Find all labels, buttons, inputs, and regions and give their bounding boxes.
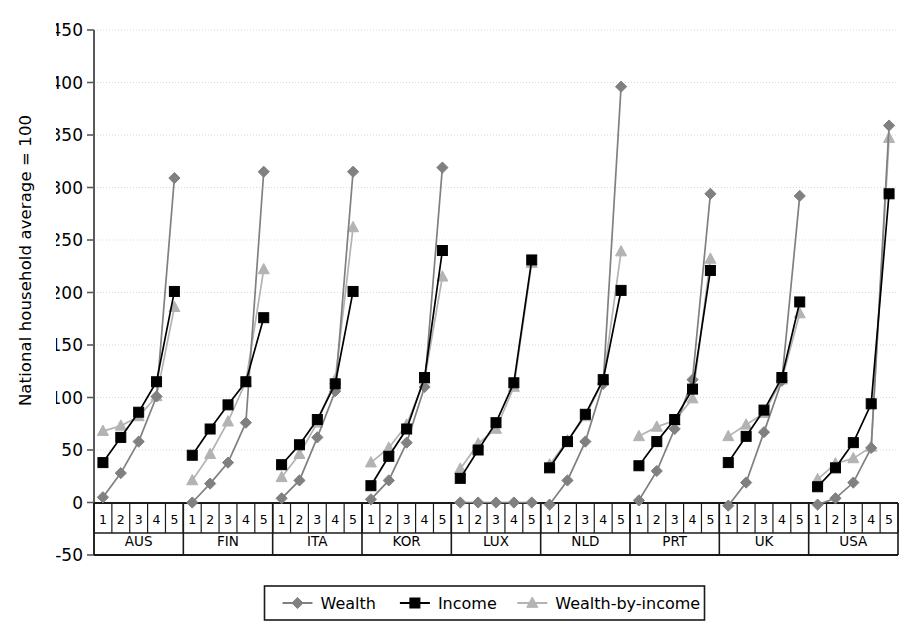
data-point-marker [169, 172, 180, 183]
x-axis-quintile-label: 1 [367, 512, 375, 527]
data-point-marker [616, 285, 626, 295]
data-point-marker [98, 458, 108, 468]
x-axis-quintile-label: 5 [617, 512, 625, 527]
data-point-marker [705, 265, 715, 275]
data-point-marker [670, 415, 680, 425]
x-axis-quintile-label: 3 [671, 512, 679, 527]
data-point-marker [473, 445, 483, 455]
data-point-marker [651, 465, 662, 476]
x-axis-quintile-label: 5 [706, 512, 714, 527]
x-axis-country-label: ITA [307, 533, 328, 549]
x-axis-country-label: PRT [662, 533, 688, 549]
x-axis-quintile-label: 2 [742, 512, 750, 527]
data-point-marker [812, 499, 823, 510]
data-point-marker [205, 424, 215, 434]
x-axis-country-label: KOR [393, 533, 421, 549]
data-point-marker [115, 420, 126, 430]
data-point-marker [580, 436, 591, 447]
data-point-marker [598, 375, 608, 385]
legend-label: Income [438, 594, 497, 613]
data-point-marker [652, 437, 662, 447]
x-axis-quintile-label: 1 [456, 512, 464, 527]
x-axis-quintile-label: 1 [546, 512, 554, 527]
data-point-marker [562, 437, 572, 447]
data-point-marker [634, 461, 644, 471]
y-axis-tick-label: 50 [61, 440, 83, 460]
y-axis-tick-label: 300 [56, 178, 83, 198]
data-point-marker [527, 255, 537, 265]
data-point-marker [420, 373, 430, 383]
data-point-marker [455, 473, 465, 483]
y-axis-tick-label: 150 [56, 335, 83, 355]
x-axis-quintile-label: 1 [724, 512, 732, 527]
data-point-marker [437, 162, 448, 173]
x-axis-quintile-label: 4 [331, 512, 339, 527]
x-axis-quintile-label: 5 [885, 512, 893, 527]
data-point-marker [347, 166, 358, 177]
data-point-marker [741, 419, 752, 429]
x-axis-quintile-label: 1 [278, 512, 286, 527]
chart-legend: WealthIncomeWealth-by-income [265, 586, 705, 620]
x-axis-quintile-label: 2 [563, 512, 571, 527]
series-wealth-by-income [97, 132, 894, 485]
data-point-marker [348, 286, 358, 296]
x-axis-quintile-label: 4 [599, 512, 607, 527]
data-point-marker [545, 463, 555, 473]
data-point-marker [615, 81, 626, 92]
x-axis-quintile-label: 3 [403, 512, 411, 527]
x-axis-quintile-label: 3 [135, 512, 143, 527]
data-point-marker [490, 497, 501, 508]
data-point-marker [830, 463, 840, 473]
data-point-marker [633, 430, 644, 440]
legend-label: Wealth-by-income [555, 594, 700, 613]
legend-marker [410, 598, 420, 608]
y-axis-tick-label: 400 [56, 73, 83, 93]
x-axis-quintile-label: 1 [99, 512, 107, 527]
data-point-marker [580, 409, 590, 419]
chart-svg: 450400350300250200150100500-5012345AUS12… [56, 8, 901, 628]
x-axis-quintile-label: 1 [188, 512, 196, 527]
x-axis-quintile-label: 4 [242, 512, 250, 527]
x-axis-country-label: NLD [571, 533, 599, 549]
y-axis-tick-label: 200 [56, 283, 83, 303]
data-point-marker [866, 442, 877, 453]
data-point-marker [294, 440, 304, 450]
y-axis-tick-label: 450 [56, 20, 83, 40]
data-point-marker [187, 450, 197, 460]
data-point-marker [883, 120, 894, 131]
x-axis-quintile-label: 3 [313, 512, 321, 527]
data-point-marker [277, 460, 287, 470]
x-axis-quintile-label: 5 [796, 512, 804, 527]
series-income [98, 189, 894, 492]
series-wealth [97, 81, 894, 511]
data-point-marker [401, 437, 412, 448]
y-axis-title: National household average = 100 [6, 0, 46, 520]
x-axis-quintile-label: 3 [760, 512, 768, 527]
x-axis-quintile-label: 5 [438, 512, 446, 527]
legend-label: Wealth [321, 594, 376, 613]
x-axis-quintile-label: 5 [170, 512, 178, 527]
data-point-marker [758, 427, 769, 438]
data-point-marker [455, 497, 466, 508]
data-point-marker [688, 384, 698, 394]
data-point-marker [866, 399, 876, 409]
data-point-marker [365, 457, 376, 467]
x-axis-country-label: FIN [217, 533, 239, 549]
data-point-marker [312, 415, 322, 425]
data-point-marker [384, 451, 394, 461]
data-point-marker [259, 313, 269, 323]
data-point-marker [133, 436, 144, 447]
data-point-marker [884, 189, 894, 199]
data-point-marker [509, 378, 519, 388]
data-point-marker [848, 438, 858, 448]
x-axis-quintile-label: 1 [635, 512, 643, 527]
y-axis-tick-label: 100 [56, 388, 83, 408]
x-axis-quintile-label: 2 [831, 512, 839, 527]
data-point-marker [526, 497, 537, 508]
data-point-marker [741, 431, 751, 441]
data-point-marker [813, 482, 823, 492]
x-axis-country-label: UK [755, 533, 775, 549]
chart-figure: National household average = 100 4504003… [0, 0, 907, 642]
data-point-marker [777, 373, 787, 383]
data-point-marker [222, 416, 233, 426]
